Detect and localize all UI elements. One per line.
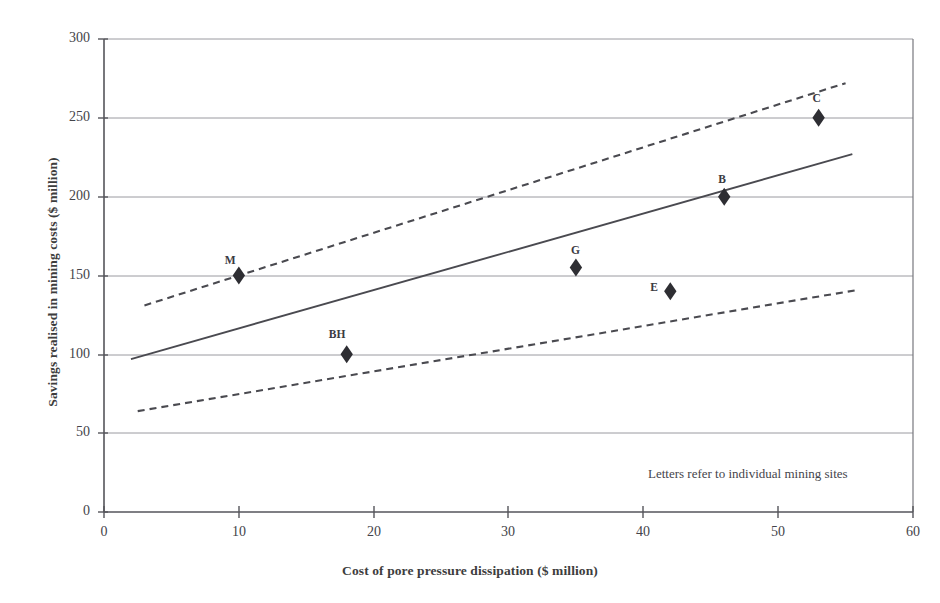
y-axis-title: Savings realised in mining costs ($ mill… [45,42,61,522]
data-point-marker-b [718,188,730,206]
data-point-marker-c [812,109,824,127]
data-point-label-bh: BH [329,328,346,340]
x-tick-label-60: 60 [890,524,936,540]
upper-confidence-band [144,83,845,305]
x-tick-label-0: 0 [81,524,127,540]
trend-line [131,154,852,359]
data-point-markers [233,109,825,364]
x-tick-label-20: 20 [351,524,397,540]
scatter-chart: 300 250 200 150 100 50 0 0 10 20 30 40 5… [0,0,940,603]
data-point-label-b: B [718,173,726,185]
gridlines [104,39,913,433]
y-axis-ticks [98,39,108,512]
data-point-marker-e [664,282,676,300]
x-axis-title: Cost of pore pressure dissipation ($ mil… [0,563,940,579]
series-lines [131,83,859,411]
data-point-marker-g [570,259,582,277]
data-point-label-m: M [225,254,236,266]
x-tick-label-40: 40 [620,524,666,540]
chart-annotation: Letters refer to individual mining sites [648,466,848,482]
x-tick-label-30: 30 [485,524,531,540]
data-point-label-g: G [571,244,580,256]
data-point-marker-m [233,267,245,285]
x-tick-label-10: 10 [216,524,262,540]
data-point-label-c: C [813,92,822,104]
x-tick-label-50: 50 [755,524,801,540]
lower-confidence-band [138,290,859,411]
plot-area [0,0,940,603]
data-point-marker-bh [341,345,353,363]
data-point-label-e: E [650,281,658,293]
